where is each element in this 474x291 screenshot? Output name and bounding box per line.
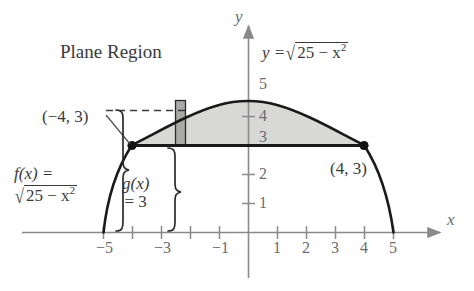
curve-equation-lhs: y = — [262, 43, 285, 62]
y-axis-label: y — [235, 8, 243, 26]
curve-equation-radicand: 25 − x — [297, 43, 341, 62]
x-tick-label--1: −1 — [212, 240, 229, 257]
y-tick-label-2: 2 — [259, 166, 267, 183]
function-label-f-line1: f(x) = — [14, 165, 77, 183]
x-tick-label-4: 4 — [360, 240, 368, 257]
y-tick-label-4: 4 — [259, 108, 267, 125]
x-axis-label: x — [447, 211, 455, 229]
radical-sign-icon: √ — [286, 45, 295, 61]
function-label-f-radicand: 25 − x — [26, 186, 70, 205]
brace-inner-g — [168, 148, 181, 231]
point-label-right: (4, 3) — [330, 160, 367, 178]
curve-equation-exponent: 2 — [341, 41, 347, 53]
function-label-g-line2: = 3 — [122, 193, 149, 211]
plane-region-figure: Plane Region y =√25 − x2 (−4, 3) (4, 3) … — [0, 0, 474, 291]
y-tick-label-5: 5 — [259, 76, 267, 93]
point-dot-right — [359, 141, 368, 150]
radical-sign-icon-f: √ — [15, 188, 24, 204]
function-label-g-line1: g(x) — [122, 175, 149, 193]
function-label-g: g(x) = 3 — [122, 175, 149, 211]
point-label-left: (−4, 3) — [42, 108, 88, 126]
figure-title: Plane Region — [60, 42, 162, 62]
x-tick-label-5: 5 — [389, 240, 397, 257]
x-tick-label-2: 2 — [302, 240, 310, 257]
x-tick-label-3: 3 — [331, 240, 339, 257]
x-tick-label-1: 1 — [273, 240, 281, 257]
curve-equation-label: y =√25 − x2 — [262, 42, 348, 62]
function-label-f: f(x) = √25 − x2 — [14, 165, 77, 205]
x-tick-label--5: −5 — [96, 240, 113, 257]
function-label-f-exponent: 2 — [70, 184, 76, 196]
leader-line-left-point — [106, 115, 130, 144]
y-tick-label-3: 3 — [259, 129, 267, 146]
y-tick-label-1: 1 — [259, 195, 267, 212]
x-tick-label--3: −3 — [154, 240, 171, 257]
